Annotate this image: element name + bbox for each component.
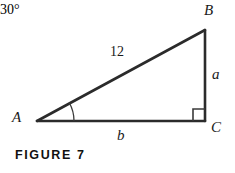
vertex-label-a: A bbox=[12, 110, 21, 125]
side-label-b: b bbox=[117, 128, 125, 143]
figure-container: A B C a b 12 30° FIGURE 7 bbox=[0, 0, 235, 173]
hypotenuse-length-label: 12 bbox=[110, 45, 124, 59]
vertex-label-b: B bbox=[204, 3, 213, 18]
right-angle-marker bbox=[193, 109, 205, 121]
figure-caption: FIGURE 7 bbox=[15, 148, 85, 162]
vertex-label-c: C bbox=[211, 120, 221, 135]
angle-arc-marker bbox=[69, 103, 74, 121]
side-label-a: a bbox=[212, 67, 220, 82]
